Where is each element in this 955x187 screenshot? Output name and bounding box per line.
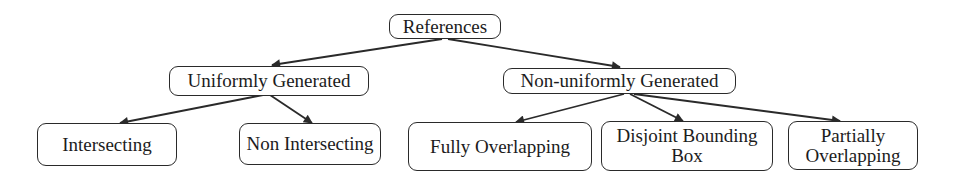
node-label-line1: Disjoint Bounding [617, 126, 758, 146]
node-non-uniformly-generated: Non-uniformly Generated [503, 68, 736, 94]
edge-references-uniformly [272, 39, 442, 65]
node-references: References [389, 14, 501, 39]
node-label: Non Intersecting [246, 134, 373, 154]
node-partially-overlapping: Partially Overlapping [788, 121, 918, 170]
edge-uniformly-nonintersecting [270, 95, 312, 123]
node-intersecting: Intersecting [37, 123, 177, 166]
node-label: References [403, 17, 487, 37]
node-label-line1: Partially [821, 126, 885, 146]
node-disjoint-bounding-box: Disjoint Bounding Box [601, 121, 773, 171]
edge-uniformly-intersecting [120, 95, 263, 123]
node-label: Intersecting [62, 135, 152, 155]
node-label: Uniformly Generated [187, 71, 350, 91]
node-fully-overlapping: Fully Overlapping [408, 122, 592, 171]
edge-nonuniformly-partially [634, 94, 840, 121]
node-label-line2: Box [671, 146, 703, 166]
node-label: Non-uniformly Generated [521, 71, 719, 91]
edge-nonuniformly-disjoint [630, 94, 683, 121]
edge-references-nonuniformly [448, 39, 620, 67]
edge-nonuniformly-fully [516, 94, 624, 122]
tree-diagram: References Uniformly Generated Non-unifo… [0, 0, 955, 187]
node-label-line2: Overlapping [806, 146, 901, 166]
node-uniformly-generated: Uniformly Generated [169, 66, 369, 96]
node-label: Fully Overlapping [430, 137, 570, 157]
node-non-intersecting: Non Intersecting [239, 123, 381, 165]
